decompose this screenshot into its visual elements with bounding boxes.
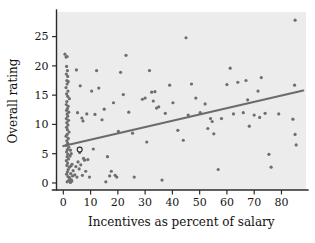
data-point [131, 132, 134, 135]
data-point [150, 91, 153, 94]
chart-canvas: 01020304050607080 0510152025 Incentives … [0, 0, 315, 243]
data-point [95, 69, 98, 72]
data-point [78, 167, 81, 170]
data-point [64, 135, 67, 138]
data-point [194, 96, 197, 99]
x-tick-label: 60 [220, 196, 234, 209]
data-point [93, 113, 96, 116]
data-point [66, 69, 69, 72]
data-point [248, 125, 251, 128]
data-point [69, 149, 72, 152]
data-point [112, 101, 115, 104]
data-point [168, 84, 171, 87]
data-point [141, 98, 144, 101]
x-tick-label: 80 [274, 196, 288, 209]
data-point [66, 55, 69, 58]
data-point [124, 54, 127, 57]
data-point [220, 117, 223, 120]
data-point [68, 97, 71, 100]
x-tick-label: 30 [138, 196, 152, 209]
x-tick-label: 0 [60, 196, 67, 209]
x-tick-label: 20 [111, 196, 125, 209]
data-point [108, 174, 111, 177]
data-point [184, 36, 187, 39]
data-point [70, 152, 73, 155]
data-point [63, 53, 66, 56]
data-point [145, 140, 148, 143]
data-point [236, 81, 239, 84]
data-point [291, 118, 294, 121]
y-tick-label: 20 [35, 60, 49, 73]
data-point [104, 180, 107, 183]
data-point [293, 19, 296, 22]
data-point [76, 160, 79, 163]
data-point [171, 101, 174, 104]
data-point [66, 75, 69, 78]
y-tick-label: 15 [35, 89, 49, 102]
y-tick-label: 0 [42, 177, 49, 190]
data-point [232, 112, 235, 115]
data-point [72, 169, 75, 172]
scatter-plot-figure: 01020304050607080 0510152025 Incentives … [0, 0, 315, 243]
y-axis-title: Overall rating [6, 58, 20, 143]
data-point [144, 96, 147, 99]
data-point [79, 84, 82, 87]
data-point [106, 155, 109, 158]
data-point [100, 118, 103, 121]
data-point [164, 112, 167, 115]
data-point [244, 79, 247, 82]
data-point [270, 166, 273, 169]
data-point [70, 180, 73, 183]
plot-area-background [57, 12, 307, 190]
x-tick-label: 70 [247, 196, 261, 209]
data-point [260, 76, 263, 79]
data-point [293, 133, 296, 136]
data-point [68, 176, 71, 179]
data-point [190, 82, 193, 85]
data-point [293, 84, 296, 87]
data-point [65, 100, 68, 103]
data-point [209, 117, 212, 120]
data-point [153, 90, 156, 93]
data-point [66, 82, 69, 85]
data-point [73, 173, 76, 176]
data-point [75, 176, 78, 179]
data-point [277, 112, 280, 115]
data-point [152, 99, 155, 102]
data-point [64, 86, 67, 89]
data-point [253, 113, 256, 116]
data-point [225, 83, 228, 86]
data-point [92, 147, 95, 150]
data-point [90, 89, 93, 92]
data-point [80, 116, 83, 119]
data-point [65, 65, 68, 68]
data-point [85, 112, 88, 115]
data-point [74, 165, 77, 168]
data-point [84, 170, 87, 173]
data-point [75, 68, 78, 71]
data-point-highlighted [77, 147, 82, 152]
x-tick-labels: 01020304050607080 [60, 196, 289, 209]
x-axis-title: Incentives as percent of salary [88, 215, 275, 229]
data-point [81, 174, 84, 177]
data-point [212, 132, 215, 135]
x-tick-label: 40 [165, 196, 179, 209]
data-point [182, 139, 185, 142]
data-point [122, 93, 125, 96]
data-point [133, 176, 136, 179]
data-point [70, 163, 73, 166]
data-point [110, 170, 113, 173]
data-point [242, 111, 245, 114]
data-point [267, 153, 270, 156]
x-tick-label: 50 [193, 196, 207, 209]
data-point [204, 102, 207, 105]
y-tick-label: 10 [35, 118, 49, 131]
data-point [229, 67, 232, 70]
data-point [176, 129, 179, 132]
x-tick-label: 10 [84, 196, 98, 209]
data-point [76, 111, 79, 114]
data-point [160, 178, 163, 181]
data-point [211, 120, 214, 123]
data-point [81, 119, 84, 122]
data-point [83, 159, 86, 162]
